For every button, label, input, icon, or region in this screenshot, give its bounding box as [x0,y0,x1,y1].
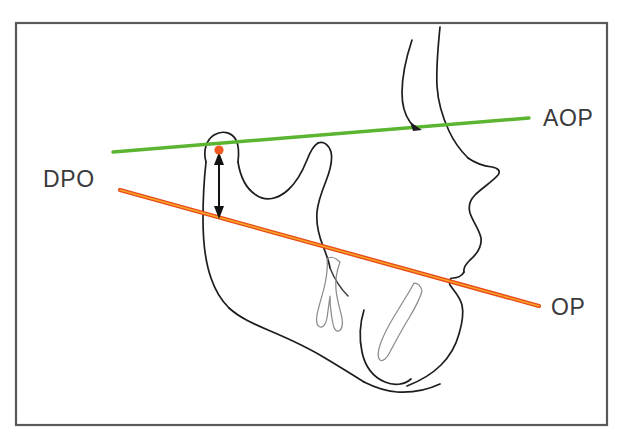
cephalometric-diagram: AOP DPO OP [0,0,624,443]
aop-label: AOP [543,105,593,131]
dpo-label: DPO [43,166,95,192]
figure-border [16,23,607,425]
cephalometric-figure: AOP DPO OP [0,0,624,443]
op-label: OP [551,294,585,320]
condylion-point [214,145,223,154]
